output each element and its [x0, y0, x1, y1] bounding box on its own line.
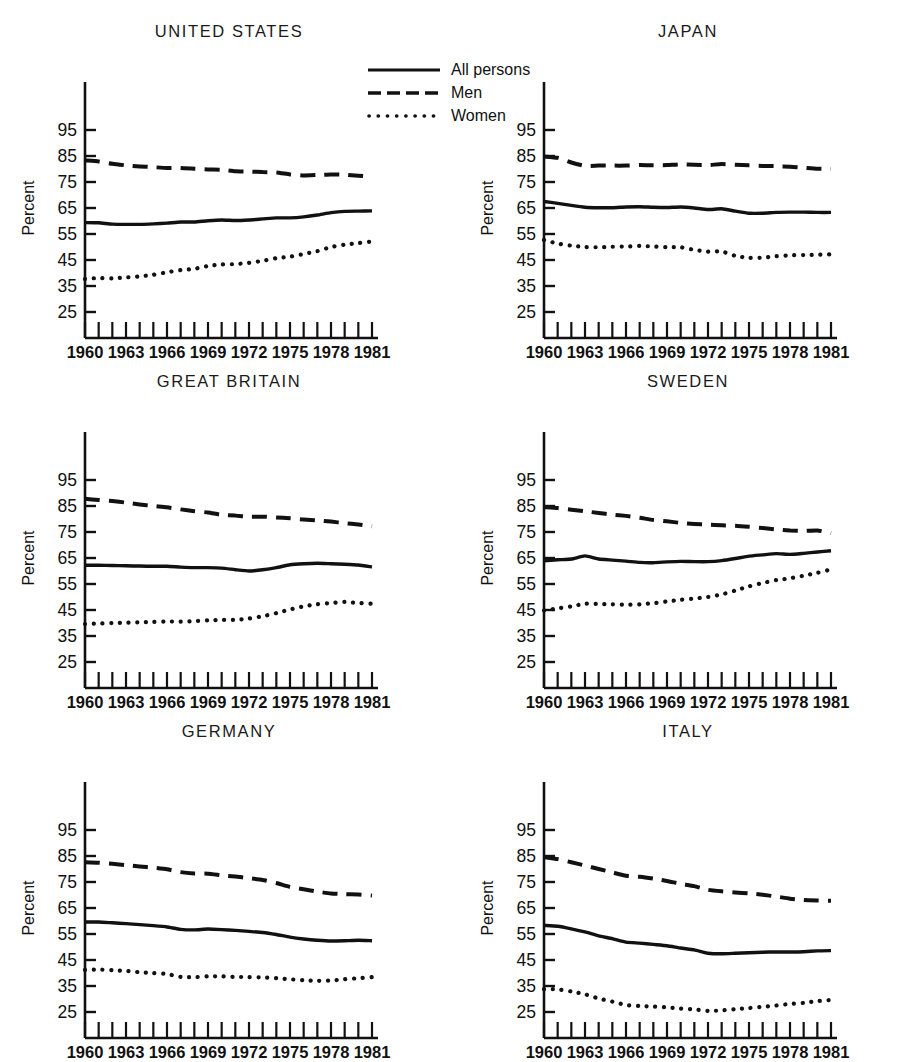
- x-tick-label: 1975: [272, 693, 309, 711]
- x-tick-label: 1972: [231, 1043, 268, 1061]
- panel-sweden: SWEDEN 9585756555453525Percent1960196319…: [459, 372, 917, 712]
- x-tick-label: 1969: [190, 693, 227, 711]
- panel-great-britain: GREAT BRITAIN 9585756555453525Percent196…: [0, 372, 458, 712]
- series-line-dotted: [544, 569, 831, 610]
- y-tick-label: 95: [58, 820, 77, 840]
- y-tick-label: 95: [517, 470, 536, 490]
- y-tick-label: 95: [58, 120, 77, 140]
- x-tick-label: 1978: [772, 1043, 809, 1061]
- x-tick-label: 1963: [567, 1043, 604, 1061]
- y-tick-label: 85: [58, 496, 77, 516]
- panel-italy: ITALY 9585756555453525Percent19601963196…: [459, 722, 917, 1062]
- plot-area: 9585756555453525Percent19601963196619691…: [459, 372, 917, 712]
- x-tick-label: 1972: [690, 693, 727, 711]
- y-tick-label: 65: [517, 198, 536, 218]
- y-tick-label: 75: [58, 872, 77, 892]
- y-tick-label: 35: [58, 976, 77, 996]
- x-tick-label: 1963: [108, 1043, 145, 1061]
- x-tick-label: 1975: [731, 1043, 768, 1061]
- x-tick-label: 1978: [313, 343, 350, 361]
- chart-svg: 9585756555453525Percent19601963196619691…: [0, 372, 458, 712]
- x-tick-label: 1960: [67, 1043, 104, 1061]
- series-line-dashed: [85, 160, 372, 176]
- y-tick-label: 75: [58, 522, 77, 542]
- x-tick-label: 1981: [354, 343, 391, 361]
- series-line-solid: [544, 925, 831, 953]
- y-tick-label: 65: [58, 548, 77, 568]
- y-tick-label: 35: [517, 276, 536, 296]
- y-tick-label: 25: [58, 302, 77, 322]
- y-tick-label: 85: [58, 146, 77, 166]
- y-tick-label: 65: [58, 898, 77, 918]
- series-line-dashed: [544, 857, 831, 901]
- x-tick-label: 1963: [108, 693, 145, 711]
- x-tick-label: 1981: [813, 693, 850, 711]
- x-tick-label: 1966: [149, 693, 186, 711]
- series-line-dashed: [85, 862, 372, 895]
- y-tick-label: 55: [58, 224, 77, 244]
- x-tick-label: 1972: [690, 1043, 727, 1061]
- chart-svg: 9585756555453525Percent19601963196619691…: [0, 22, 458, 362]
- series-line-dotted: [544, 240, 831, 258]
- y-tick-label: 45: [517, 950, 536, 970]
- y-tick-label: 85: [517, 496, 536, 516]
- x-tick-label: 1963: [108, 343, 145, 361]
- x-tick-label: 1960: [526, 1043, 563, 1061]
- x-tick-label: 1981: [354, 693, 391, 711]
- y-tick-label: 45: [517, 250, 536, 270]
- y-tick-label: 45: [517, 600, 536, 620]
- x-tick-label: 1981: [354, 1043, 391, 1061]
- x-tick-label: 1966: [608, 343, 645, 361]
- x-tick-label: 1978: [772, 693, 809, 711]
- x-tick-label: 1960: [526, 343, 563, 361]
- y-tick-label: 55: [517, 224, 536, 244]
- x-tick-label: 1975: [272, 343, 309, 361]
- y-tick-label: 35: [517, 976, 536, 996]
- y-tick-label: 25: [517, 652, 536, 672]
- y-tick-label: 85: [517, 846, 536, 866]
- series-line-solid: [85, 922, 372, 941]
- y-tick-label: 35: [58, 626, 77, 646]
- x-tick-label: 1966: [608, 1043, 645, 1061]
- chart-svg: 9585756555453525Percent19601963196619691…: [0, 722, 458, 1062]
- x-tick-label: 1972: [231, 693, 268, 711]
- y-tick-label: 35: [517, 626, 536, 646]
- x-tick-label: 1966: [149, 1043, 186, 1061]
- y-tick-label: 75: [517, 172, 536, 192]
- panel-japan: JAPAN 9585756555453525Percent19601963196…: [459, 22, 917, 362]
- y-tick-label: 25: [517, 302, 536, 322]
- y-tick-label: 75: [517, 522, 536, 542]
- x-tick-label: 1960: [67, 693, 104, 711]
- y-axis-label: Percent: [20, 530, 37, 586]
- y-tick-label: 45: [58, 950, 77, 970]
- x-tick-label: 1969: [190, 343, 227, 361]
- plot-area: 9585756555453525Percent19601963196619691…: [0, 22, 458, 362]
- y-tick-label: 35: [58, 276, 77, 296]
- y-tick-label: 55: [517, 924, 536, 944]
- y-axis-label: Percent: [20, 880, 37, 936]
- x-tick-label: 1978: [772, 343, 809, 361]
- y-tick-label: 95: [517, 820, 536, 840]
- y-axis-label: Percent: [20, 180, 37, 236]
- figure-root: All persons Men Women UNITED STATES 9585…: [0, 0, 917, 1062]
- x-tick-label: 1978: [313, 1043, 350, 1061]
- y-axis-label: Percent: [479, 880, 496, 936]
- series-line-solid: [85, 211, 372, 225]
- y-tick-label: 65: [58, 198, 77, 218]
- x-tick-label: 1963: [567, 693, 604, 711]
- series-line-solid: [544, 551, 831, 563]
- y-tick-label: 85: [58, 846, 77, 866]
- plot-area: 9585756555453525Percent19601963196619691…: [459, 22, 917, 362]
- series-line-dotted: [85, 242, 372, 279]
- y-tick-label: 45: [58, 250, 77, 270]
- chart-svg: 9585756555453525Percent19601963196619691…: [459, 722, 917, 1062]
- y-tick-label: 75: [58, 172, 77, 192]
- plot-area: 9585756555453525Percent19601963196619691…: [459, 722, 917, 1062]
- x-tick-label: 1975: [731, 693, 768, 711]
- y-axis-label: Percent: [479, 530, 496, 586]
- y-tick-label: 55: [58, 924, 77, 944]
- panel-united-states: UNITED STATES 9585756555453525Percent196…: [0, 22, 458, 362]
- y-tick-label: 55: [517, 574, 536, 594]
- x-tick-label: 1981: [813, 343, 850, 361]
- series-line-dashed: [85, 499, 372, 527]
